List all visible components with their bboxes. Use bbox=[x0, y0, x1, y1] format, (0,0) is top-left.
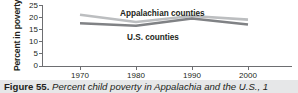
figure-caption-label: Figure 55. bbox=[4, 81, 49, 92]
figure-caption-bar: Figure 55. Percent child poverty in Appa… bbox=[0, 80, 298, 93]
figure-caption-text: Figure 55. Percent child poverty in Appa… bbox=[4, 81, 298, 93]
series-label-us: U.S. counties bbox=[127, 33, 179, 42]
figure-container: Percent in poverty 25 20 15 10 5 0 1970 … bbox=[0, 0, 298, 93]
series-label-appalachian: Appalachian counties bbox=[120, 9, 205, 18]
chart-plot-region: Percent in poverty 25 20 15 10 5 0 1970 … bbox=[0, 0, 298, 80]
figure-caption-body: Percent child poverty in Appalachia and … bbox=[49, 81, 268, 92]
